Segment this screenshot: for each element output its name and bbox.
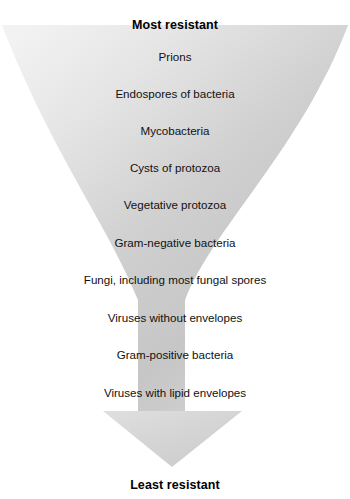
diagram-canvas: Most resistant Prions Endospores of bact…	[0, 0, 350, 499]
tier-label-2: Endospores of bacteria	[0, 87, 350, 100]
tier-label-3: Mycobacteria	[0, 124, 350, 137]
tier-label-6: Gram-negative bacteria	[0, 236, 350, 249]
least-resistant-label: Least resistant	[0, 478, 350, 492]
tier-label-5: Vegetative protozoa	[0, 198, 350, 211]
tier-label-7: Fungi, including most fungal spores	[0, 273, 350, 286]
tier-label-1: Prions	[0, 50, 350, 63]
tier-label-10: Viruses with lipid envelopes	[0, 386, 350, 399]
tier-label-8: Viruses without envelopes	[0, 311, 350, 324]
tier-label-9: Gram-positive bacteria	[0, 348, 350, 361]
tier-label-4: Cysts of protozoa	[0, 161, 350, 174]
arrowhead-path	[103, 411, 242, 467]
most-resistant-label: Most resistant	[0, 18, 350, 32]
funnel-arrow-shape	[0, 0, 350, 499]
